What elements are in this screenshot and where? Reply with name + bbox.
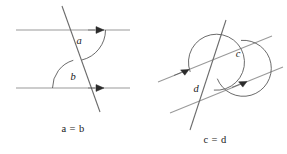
right-transversal-line xyxy=(190,20,226,130)
angle-c-label: c xyxy=(236,48,241,59)
right-caption-c-equals-d: c = d xyxy=(203,134,226,145)
left-diagram-group: a b a = b xyxy=(16,6,130,134)
left-caption-a-equals-b: a = b xyxy=(61,123,84,134)
angle-b-label: b xyxy=(70,71,75,82)
angle-a-label: a xyxy=(76,35,81,46)
left-transversal-line xyxy=(62,6,100,112)
right-upper-direction-marker-icon xyxy=(174,70,189,76)
right-diagram-group: c d c = d xyxy=(158,20,283,145)
left-upper-direction-marker-icon xyxy=(88,27,104,34)
angle-d-label: d xyxy=(193,83,199,94)
right-lower-parallel-line xyxy=(170,67,283,113)
geometry-figure: a b a = b xyxy=(0,0,287,154)
angle-d-arc xyxy=(188,34,244,90)
parallel-lines-angle-figure: a b a = b xyxy=(0,0,287,154)
angle-a-arc xyxy=(82,30,106,60)
